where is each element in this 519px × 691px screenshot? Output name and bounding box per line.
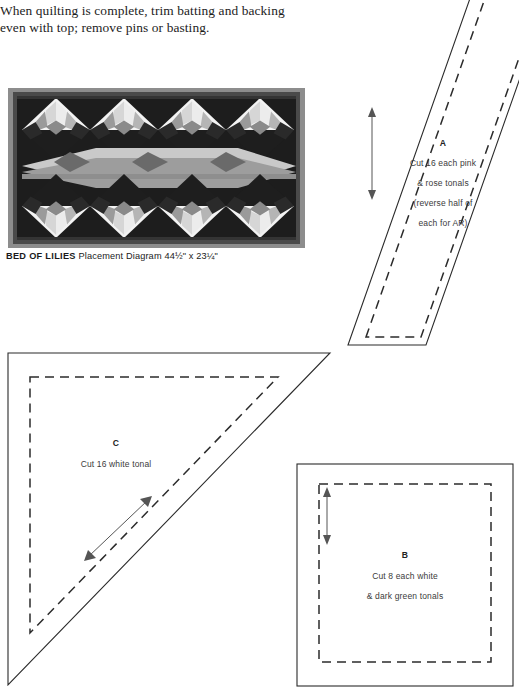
template-a-line-4: each for AR) <box>418 218 467 228</box>
placement-diagram-image <box>8 88 305 248</box>
template-a-line-3: (reverse half of <box>413 198 473 208</box>
placement-diagram-caption: BED OF LILIES Placement Diagram 44½" x 2… <box>6 251 218 261</box>
template-a-label: A <box>440 138 447 148</box>
caption-diagram-size: Placement Diagram 44½" x 23¼" <box>78 251 218 261</box>
template-piece-b: B Cut 8 each white & dark green tonals <box>293 460 519 691</box>
template-a-line-2: & rose tonals <box>417 178 469 188</box>
grain-line-arrow-c <box>84 496 152 561</box>
template-b-label: B <box>402 550 409 560</box>
template-c-label: C <box>113 438 120 448</box>
grain-line-arrow-a <box>368 107 376 200</box>
template-c-line-1: Cut 16 white tonal <box>81 459 152 469</box>
template-b-line-2: & dark green tonals <box>367 591 444 601</box>
grain-line-arrow-b <box>323 487 331 545</box>
quilting-instruction-paragraph: When quilting is complete, trim batting … <box>0 2 312 36</box>
template-piece-c: C Cut 16 white tonal <box>0 345 340 691</box>
template-piece-a: A Cut 16 each pink & rose tonals (revers… <box>330 0 519 460</box>
caption-quilt-name: BED OF LILIES <box>6 251 76 261</box>
template-a-line-1: Cut 16 each pink <box>410 158 477 168</box>
template-b-line-1: Cut 8 each white <box>372 571 438 581</box>
